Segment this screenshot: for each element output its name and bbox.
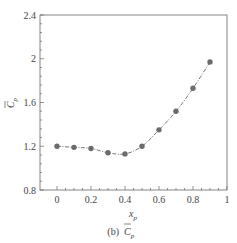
figure-caption: (b) Cp bbox=[107, 224, 134, 240]
svg-text:0.6: 0.6 bbox=[153, 194, 166, 205]
chart: 00.20.40.60.810.81.21.622.4 Cp xp (b) Cp bbox=[0, 0, 237, 243]
svg-text:0.8: 0.8 bbox=[24, 185, 37, 196]
data-point bbox=[207, 59, 212, 64]
data-point bbox=[156, 127, 161, 132]
data-series bbox=[54, 59, 212, 156]
svg-text:1: 1 bbox=[225, 194, 230, 205]
svg-text:Cp: Cp bbox=[5, 97, 19, 108]
data-point bbox=[105, 150, 110, 155]
svg-text:0.2: 0.2 bbox=[85, 194, 98, 205]
data-point bbox=[88, 146, 93, 151]
y-axis-label: Cp bbox=[5, 97, 19, 108]
svg-text:Cp: Cp bbox=[124, 226, 135, 240]
svg-text:1.2: 1.2 bbox=[24, 141, 37, 152]
plot-frame bbox=[40, 15, 227, 190]
data-point bbox=[190, 86, 195, 91]
data-point bbox=[173, 109, 178, 114]
data-point bbox=[122, 151, 127, 156]
svg-text:2.4: 2.4 bbox=[24, 10, 37, 21]
svg-text:0.8: 0.8 bbox=[187, 194, 200, 205]
svg-text:1.6: 1.6 bbox=[24, 97, 37, 108]
data-point bbox=[71, 145, 76, 150]
axis-ticks: 00.20.40.60.810.81.21.622.4 bbox=[24, 10, 230, 206]
svg-text:0: 0 bbox=[55, 194, 60, 205]
x-axis-label: xp bbox=[128, 208, 137, 222]
svg-text:2: 2 bbox=[31, 53, 36, 64]
data-point bbox=[54, 144, 59, 149]
data-point bbox=[139, 144, 144, 149]
svg-text:(b): (b) bbox=[107, 226, 119, 238]
svg-text:0.4: 0.4 bbox=[119, 194, 132, 205]
